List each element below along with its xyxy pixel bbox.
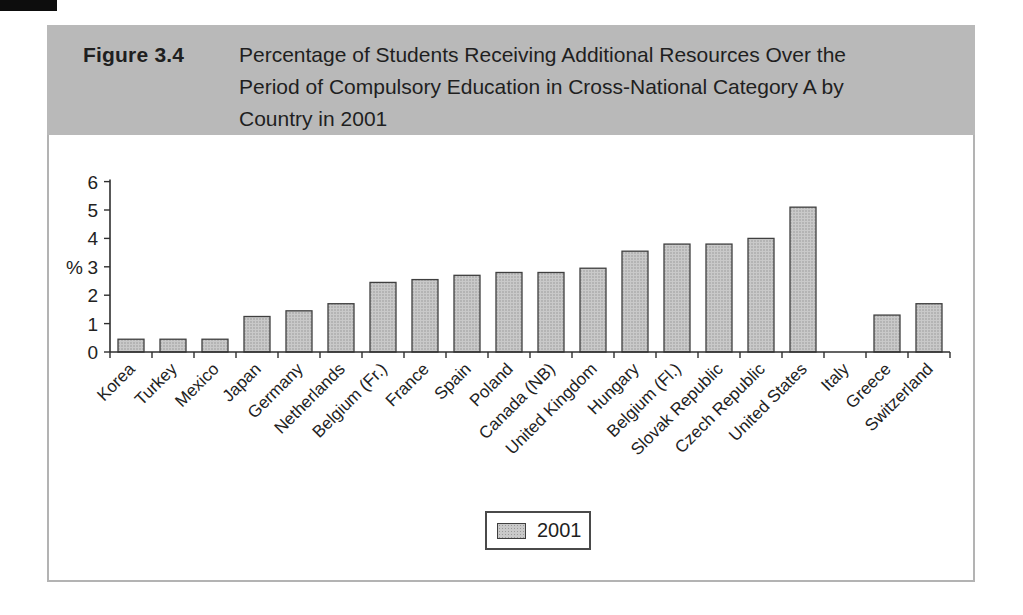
y-tick-label: 6 (87, 172, 98, 193)
figure-header: Figure 3.4 Percentage of Students Receiv… (47, 25, 975, 135)
bar-france (412, 280, 438, 352)
bar-spain (454, 275, 480, 352)
bar-canada-nb (538, 272, 564, 352)
figure-title-line-3: Country in 2001 (239, 103, 846, 135)
bar-belgium-fl (664, 244, 690, 352)
legend-swatch-2001 (497, 523, 526, 539)
scan-artifact-bar (0, 0, 57, 11)
y-tick-label: 3 (87, 257, 98, 278)
figure-3-4: Figure 3.4 Percentage of Students Receiv… (47, 25, 975, 582)
legend: 2001 (485, 511, 591, 550)
y-tick-label: 1 (87, 314, 98, 335)
bar-united-states (790, 207, 816, 352)
bar-slovak-republic (706, 244, 732, 352)
y-tick-label: 2 (87, 285, 98, 306)
figure-title-line-1: Percentage of Students Receiving Additio… (239, 39, 846, 71)
bar-switzerland (916, 304, 942, 352)
bar-turkey (160, 339, 186, 352)
x-label-france: France (382, 359, 433, 410)
legend-label: 2001 (537, 519, 582, 542)
bar-mexico (202, 339, 228, 352)
chart-panel: 0123456%KoreaTurkeyMexicoJapanGermanyNet… (47, 135, 975, 582)
figure-title: Percentage of Students Receiving Additio… (239, 39, 846, 135)
y-tick-label: 5 (87, 200, 98, 221)
bar-japan (244, 317, 270, 353)
bar-germany (286, 311, 312, 352)
bar-poland (496, 272, 522, 352)
bar-czech-republic (748, 238, 774, 352)
x-label-mexico: Mexico (171, 359, 223, 411)
figure-label: Figure 3.4 (83, 39, 239, 135)
figure-title-line-2: Period of Compulsory Education in Cross-… (239, 71, 846, 103)
bar-netherlands (328, 304, 354, 352)
y-tick-label: 4 (87, 228, 98, 249)
y-axis-title: % (66, 257, 83, 278)
x-label-italy: Italy (817, 359, 853, 395)
bar-united-kingdom (580, 268, 606, 352)
x-label-turkey: Turkey (131, 359, 181, 409)
bar-belgium-fr (370, 282, 396, 352)
y-tick-label: 0 (87, 342, 98, 363)
page-root: Figure 3.4 Percentage of Students Receiv… (0, 0, 1023, 615)
bar-greece (874, 315, 900, 352)
bar-hungary (622, 251, 648, 352)
bar-korea (118, 339, 144, 352)
